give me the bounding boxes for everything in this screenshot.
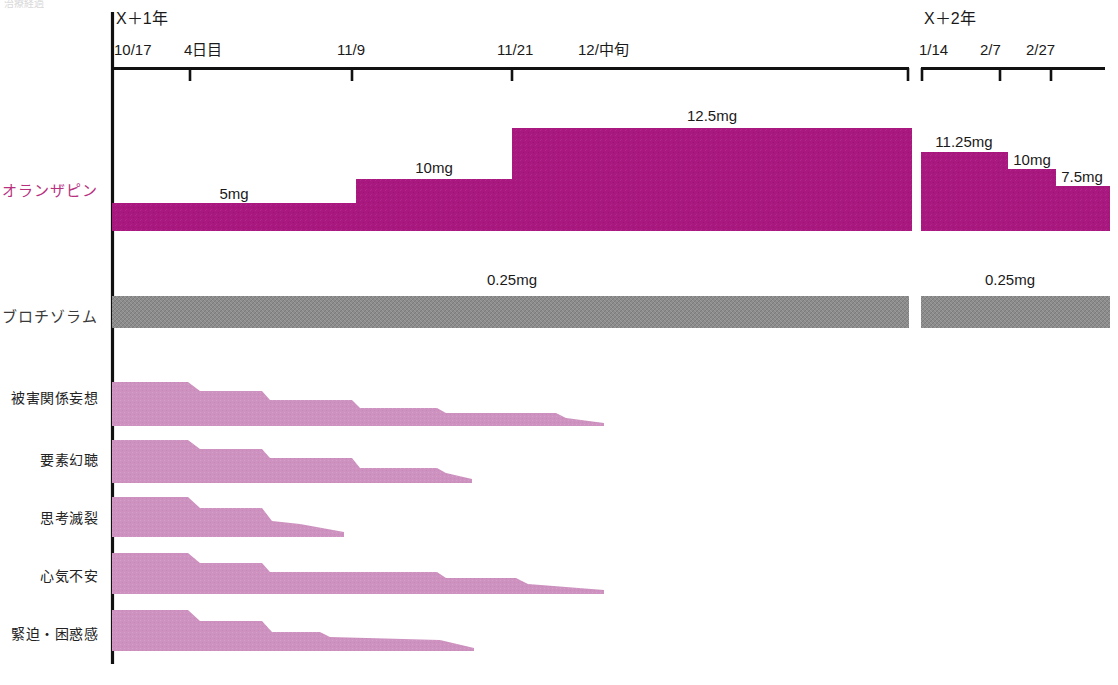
axis-label-1109: 11/9 xyxy=(337,41,365,58)
row-label-olanzapine: オランザピン xyxy=(2,182,98,199)
symptom-wedge-5 xyxy=(112,610,474,651)
olanzapine-dose-steps-period1 xyxy=(112,128,912,231)
row-label-symptom-5: 緊迫・困惑感 xyxy=(11,626,98,642)
dose-label-olz-7-5mg: 7.5mg xyxy=(1061,168,1103,185)
dose-label-olz-10mg-taper: 10mg xyxy=(1013,151,1051,168)
axis-label-12mid: 12/中旬 xyxy=(578,41,629,58)
symptom-wedges: 被害関係妄想 要素幻聴 思考滅裂 心気不安 緊迫・困惑感 xyxy=(11,382,604,651)
dose-label-olz-11-25mg: 11.25mg xyxy=(935,133,992,150)
axis-label-0227: 2/27 xyxy=(1026,41,1055,58)
symptom-wedge-1 xyxy=(112,382,604,426)
row-label-symptom-2: 要素幻聴 xyxy=(40,452,98,468)
axis-label-4days: 4日目 xyxy=(184,41,222,58)
brotizolam-bar-period2 xyxy=(921,296,1110,328)
axis-label-1121: 11/21 xyxy=(497,41,533,58)
dose-label-brz-period1: 0.25mg xyxy=(487,271,537,288)
year-label-x2: X＋2年 xyxy=(924,10,976,27)
row-label-symptom-4: 心気不安 xyxy=(40,568,98,584)
axis-label-1017: 10/17 xyxy=(114,41,152,58)
row-label-symptom-3: 思考滅裂 xyxy=(40,510,98,526)
row-label-brotizolam: ブロチゾラム xyxy=(2,308,98,325)
dose-label-olz-12-5mg: 12.5mg xyxy=(687,107,737,124)
row-label-symptom-1: 被害関係妄想 xyxy=(11,390,98,406)
symptom-wedge-3 xyxy=(112,497,344,537)
row-brotizolam: ブロチゾラム 0.25mg 0.25mg xyxy=(2,271,1110,328)
top-caption: 治療経過 xyxy=(4,0,44,9)
row-olanzapine: オランザピン 5mg 10mg 12.5mg 11.25mg 10mg 7.5m… xyxy=(2,107,1110,231)
axis-label-0114: 1/14 xyxy=(919,41,948,58)
brotizolam-bar-period1 xyxy=(112,296,909,328)
timeline-canvas: 治療経過 X＋1年 X＋2年 10/17 4日目 11/9 xyxy=(0,0,1118,685)
symptom-wedge-2 xyxy=(112,440,472,483)
symptom-wedge-4 xyxy=(112,553,604,594)
dose-label-olz-10mg: 10mg xyxy=(415,159,453,176)
dose-label-olz-5mg: 5mg xyxy=(219,185,248,202)
dose-label-brz-period2: 0.25mg xyxy=(985,271,1035,288)
axis-label-0207: 2/7 xyxy=(980,41,1001,58)
year-label-x1: X＋1年 xyxy=(116,10,168,27)
clinical-course-figure: 治療経過 X＋1年 X＋2年 10/17 4日目 11/9 xyxy=(0,0,1118,685)
